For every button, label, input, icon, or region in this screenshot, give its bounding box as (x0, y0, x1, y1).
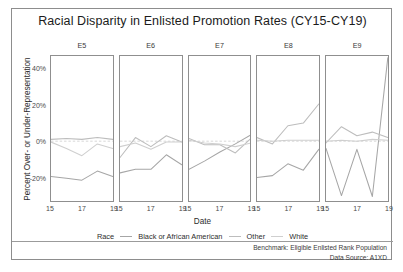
panel-e8 (256, 55, 320, 202)
chart-footer: Benchmark: Eligible Enlisted Rank Popula… (253, 243, 387, 262)
legend-title: Race (97, 232, 114, 241)
legend-swatch-white (271, 236, 283, 237)
legend-label-white: White (289, 232, 308, 241)
panel-header-e7: E7 (188, 41, 252, 50)
footer-benchmark: Benchmark: Eligible Enlisted Rank Popula… (253, 243, 387, 253)
x-axis-tick: 17 (78, 205, 86, 212)
series-line-other (120, 136, 182, 158)
x-axis-label: Date (12, 217, 393, 226)
y-axis-tick: 20% (12, 101, 46, 108)
series-line-black-or-african-american (189, 135, 251, 169)
x-axis-tick: 17 (147, 205, 155, 212)
chart-title: Racial Disparity in Enlisted Promotion R… (12, 14, 393, 28)
series-line-black-or-african-american (51, 171, 113, 180)
panel-e5 (50, 55, 114, 202)
series-line-black-or-african-american (120, 155, 182, 173)
x-axis-tick: 15 (321, 205, 329, 212)
legend-label-black-or-african-american: Black or African American (138, 232, 222, 241)
x-axis-tick: 19 (385, 205, 393, 212)
x-axis-tick: 17 (216, 205, 224, 212)
chart-legend: Race Black or African American Other Whi… (12, 231, 393, 241)
panel-e9 (325, 55, 389, 202)
panel-e6 (119, 55, 183, 202)
y-axis-tick: -20% (12, 175, 46, 182)
panel-header-e5: E5 (50, 41, 114, 50)
x-axis-tick: 15 (184, 205, 192, 212)
series-line-black-or-african-american (326, 58, 388, 197)
chart-frame: Racial Disparity in Enlisted Promotion R… (11, 8, 392, 260)
legend-label-other: Other (247, 232, 265, 241)
panel-header-e9: E9 (325, 41, 389, 50)
series-line-white (51, 142, 113, 156)
x-axis-tick: 15 (115, 205, 123, 212)
y-axis-tick: 0% (12, 138, 46, 145)
footer-data-source: Data Source: A1XD (253, 253, 387, 263)
x-axis-tick: 15 (252, 205, 260, 212)
series-line-black-or-african-american (257, 149, 319, 177)
panel-e7 (188, 55, 252, 202)
x-axis-tick: 15 (46, 205, 54, 212)
panel-header-e8: E8 (256, 41, 320, 50)
x-axis-tick: 17 (284, 205, 292, 212)
panel-header-e6: E6 (119, 41, 183, 50)
series-line-other (51, 138, 113, 140)
x-axis-tick: 17 (353, 205, 361, 212)
y-axis-tick: 40% (12, 64, 46, 71)
footer-divider (12, 241, 393, 242)
series-line-other (257, 104, 319, 144)
legend-swatch-other (229, 236, 241, 237)
legend-swatch-black-or-african-american (120, 236, 132, 237)
